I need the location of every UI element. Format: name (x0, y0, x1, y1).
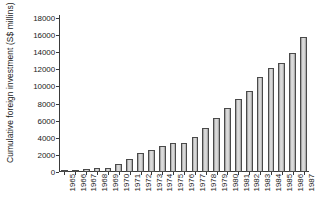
bar (257, 77, 264, 172)
bar (278, 63, 285, 172)
y-tick-label: 2000 (38, 150, 55, 159)
bar (192, 137, 199, 172)
x-tick-label: 1974 (165, 174, 174, 208)
x-tick-label: 1967 (89, 174, 98, 208)
bar (202, 128, 209, 172)
bar (300, 37, 307, 172)
x-tick-label: 1972 (144, 174, 153, 208)
bar (289, 53, 296, 172)
x-tick-label: 1984 (274, 174, 283, 208)
x-tick-label: 1982 (252, 174, 261, 208)
x-axis-tick-labels: 1965196619671968196919701971197219731974… (59, 174, 309, 214)
bar (148, 150, 155, 172)
bar (170, 143, 177, 172)
bar (268, 68, 275, 172)
x-tick-label: 1977 (198, 174, 207, 208)
bar (224, 108, 231, 172)
y-tick-mark (56, 69, 59, 70)
y-tick-label: 8000 (38, 99, 55, 108)
y-tick-mark (56, 138, 59, 139)
y-tick-mark (56, 18, 59, 19)
y-tick-label: 18000 (33, 14, 55, 23)
y-tick-mark (56, 104, 59, 105)
bar (181, 143, 188, 172)
x-tick-label: 1981 (242, 174, 251, 208)
bar (235, 99, 242, 172)
plot-area (59, 18, 309, 172)
bar (246, 91, 253, 172)
chart-figure: Cumulative foreign investment (S$ millin… (0, 0, 318, 214)
bar (137, 153, 144, 172)
y-tick-label: 12000 (33, 65, 55, 74)
x-tick-label: 1968 (100, 174, 109, 208)
x-tick-label: 1969 (111, 174, 120, 208)
y-tick-label: 10000 (33, 82, 55, 91)
bar (213, 118, 220, 172)
y-tick-label: 6000 (38, 116, 55, 125)
x-tick-label: 1985 (285, 174, 294, 208)
y-tick-mark (56, 121, 59, 122)
y-tick-label: 14000 (33, 48, 55, 57)
x-tick-label: 1965 (68, 174, 77, 208)
y-tick-label: 16000 (33, 31, 55, 40)
y-axis-label: Cumulative foreign investment (S$ millin… (5, 7, 15, 163)
x-tick-label: 1971 (133, 174, 142, 208)
bar (115, 164, 122, 173)
bar-series (59, 18, 309, 172)
bar (159, 146, 166, 172)
x-tick-label: 1978 (209, 174, 218, 208)
y-tick-mark (56, 172, 59, 173)
y-tick-label: 0 (51, 168, 55, 177)
y-tick-mark (56, 155, 59, 156)
x-tick-label: 1966 (79, 174, 88, 208)
x-tick-label: 1986 (296, 174, 305, 208)
x-tick-label: 1987 (307, 174, 316, 208)
bar (126, 159, 133, 172)
y-tick-mark (56, 86, 59, 87)
x-tick-label: 1979 (220, 174, 229, 208)
y-axis-tick-labels: 0200040006000800010000120001400016000180… (17, 14, 57, 174)
x-tick-label: 1980 (231, 174, 240, 208)
x-tick-label: 1975 (176, 174, 185, 208)
x-tick-label: 1983 (263, 174, 272, 208)
x-tick-label: 1976 (187, 174, 196, 208)
x-tick-label: 1970 (122, 174, 131, 208)
x-tick-label: 1973 (155, 174, 164, 208)
y-tick-label: 4000 (38, 133, 55, 142)
y-axis-label-container: Cumulative foreign investment (S$ millin… (0, 0, 18, 180)
y-tick-mark (56, 52, 59, 53)
y-tick-mark (56, 35, 59, 36)
